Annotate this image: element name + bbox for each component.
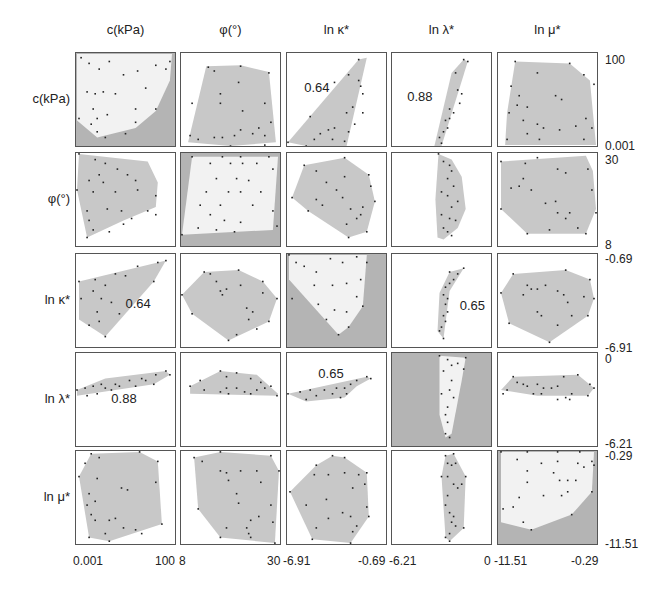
x-tick-min-col5: -11.51 bbox=[494, 554, 527, 568]
scatter-panel-r5-c2 bbox=[180, 450, 281, 545]
y-tick-min-row5: -11.51 bbox=[605, 537, 638, 551]
correlation-label: 0.64 bbox=[126, 296, 151, 311]
scatter-panel-r4-c5 bbox=[497, 352, 598, 447]
column-label-phi: φ(°) bbox=[180, 22, 281, 37]
scatter-panel-r3-c5 bbox=[497, 253, 598, 348]
scatter-panel-r1-c5 bbox=[497, 52, 598, 147]
scatter-panel-r2-c1 bbox=[75, 152, 176, 247]
diagonal-panel-1 bbox=[75, 52, 176, 147]
convex-hull bbox=[79, 452, 162, 541]
column-label-ln-lambda: ln λ* bbox=[391, 22, 492, 37]
y-tick-max-row3: -0.69 bbox=[605, 252, 632, 266]
scatter-panel-r1-c3: 0.64 bbox=[286, 52, 387, 147]
scatter-panel-r4-c3: 0.65 bbox=[286, 352, 387, 447]
row-label-ln-lambda: ln λ* bbox=[0, 391, 70, 406]
scatterplot-matrix: c(kPa) φ(°) ln κ* ln λ* ln μ* c(kPa) φ(°… bbox=[0, 0, 666, 593]
x-tick-min-col3: -6.91 bbox=[283, 554, 310, 568]
scatter-panel-r2-c4 bbox=[391, 152, 492, 247]
diagonal-panel-4 bbox=[391, 352, 492, 447]
column-label-ln-kappa: ln κ* bbox=[286, 22, 387, 37]
row-label-ln-mu: ln μ* bbox=[0, 489, 70, 504]
scatter-panel-r3-c4: 0.65 bbox=[391, 253, 492, 348]
y-tick-min-row2: 8 bbox=[605, 238, 612, 252]
diagonal-panel-3 bbox=[286, 253, 387, 348]
y-tick-max-row2: 30 bbox=[605, 153, 618, 167]
scatter-panel-r5-c1 bbox=[75, 450, 176, 545]
x-tick-max-col5: -0.29 bbox=[571, 554, 598, 568]
x-tick-max-col2: 30 bbox=[267, 554, 280, 568]
column-label-c: c(kPa) bbox=[75, 22, 176, 37]
scatter-panel-r1-c4: 0.88 bbox=[391, 52, 492, 147]
y-tick-max-row1: 100 bbox=[605, 53, 625, 67]
correlation-label: 0.64 bbox=[304, 80, 329, 95]
y-tick-min-row1: 0.001 bbox=[605, 139, 635, 153]
correlation-label: 0.88 bbox=[407, 89, 432, 104]
scatter-panel-r4-c2 bbox=[180, 352, 281, 447]
scatter-panel-r5-c3 bbox=[286, 450, 387, 545]
convex-hull bbox=[501, 156, 596, 234]
feasible-region bbox=[182, 157, 278, 235]
scatter-panel-r5-c4 bbox=[391, 450, 492, 545]
column-label-ln-mu: ln μ* bbox=[497, 22, 598, 37]
row-label-c: c(kPa) bbox=[0, 91, 70, 106]
correlation-label: 0.65 bbox=[318, 366, 343, 381]
scatter-panel-r1-c2 bbox=[180, 52, 281, 147]
x-tick-max-col3: -0.69 bbox=[358, 554, 385, 568]
x-tick-max-col1: 100 bbox=[155, 554, 175, 568]
x-tick-min-col1: 0.001 bbox=[73, 554, 103, 568]
scatter-panel-r3-c2 bbox=[180, 253, 281, 348]
diagonal-panel-5 bbox=[497, 450, 598, 545]
correlation-label: 0.88 bbox=[111, 391, 136, 406]
scatter-panel-r2-c5 bbox=[497, 152, 598, 247]
x-tick-max-col4: 0 bbox=[484, 554, 491, 568]
y-tick-max-row4: 0 bbox=[605, 352, 612, 366]
row-label-phi: φ(°) bbox=[0, 191, 70, 206]
diagonal-panel-2 bbox=[180, 152, 281, 247]
correlation-label: 0.65 bbox=[460, 298, 485, 313]
y-tick-max-row5: -0.29 bbox=[605, 449, 632, 463]
x-tick-min-col4: -6.21 bbox=[389, 554, 416, 568]
scatter-panel-r2-c3 bbox=[286, 152, 387, 247]
x-tick-min-col2: 8 bbox=[179, 554, 186, 568]
row-label-ln-kappa: ln κ* bbox=[0, 292, 70, 307]
scatter-panel-r3-c1: 0.64 bbox=[75, 253, 176, 348]
scatter-panel-r4-c1: 0.88 bbox=[75, 352, 176, 447]
